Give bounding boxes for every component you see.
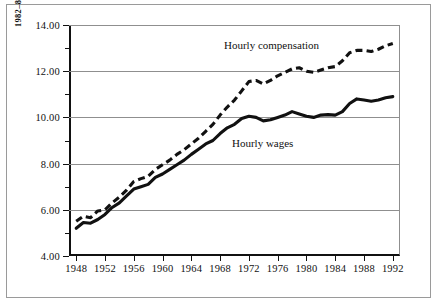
x-tick-label: 1980 [296, 263, 318, 274]
y-tick-label: 8.00 [41, 158, 60, 169]
x-tick [249, 256, 250, 261]
y-axis-title: 1982–84 DOLLARS [14, 0, 23, 27]
x-tick [191, 256, 192, 261]
x-tick-label: 1956 [123, 263, 145, 274]
x-tick-label: 1964 [180, 263, 202, 274]
x-tick [364, 256, 365, 261]
x-tick-label: 1968 [209, 263, 231, 274]
x-tick-label: 1948 [65, 263, 87, 274]
series-label-wages: Hourly wages [232, 137, 293, 149]
x-tick-label: 1972 [238, 263, 260, 274]
y-tick-label: 12.00 [35, 66, 60, 77]
x-tick-label: 1976 [267, 263, 289, 274]
x-tick-label: 1952 [94, 263, 116, 274]
y-tick-label: 14.00 [35, 20, 60, 31]
x-tick-label: 1992 [382, 263, 404, 274]
series-line-compensation [76, 43, 393, 221]
x-tick [306, 256, 307, 261]
x-tick [163, 256, 164, 261]
y-tick-label: 6.00 [41, 204, 60, 215]
series-line-wages [76, 97, 393, 229]
y-tick-major [63, 256, 69, 257]
x-tick [278, 256, 279, 261]
x-tick [76, 256, 77, 261]
x-tick-label: 1984 [324, 263, 346, 274]
x-tick [393, 256, 394, 261]
x-tick [105, 256, 106, 261]
x-tick [220, 256, 221, 261]
y-tick-label: 4.00 [41, 251, 60, 262]
x-tick [335, 256, 336, 261]
series-label-compensation: Hourly compensation [224, 39, 319, 51]
y-tick-label: 10.00 [35, 112, 60, 123]
x-tick [134, 256, 135, 261]
x-tick-label: 1988 [353, 263, 375, 274]
x-tick-label: 1960 [152, 263, 174, 274]
chart-figure: 1982–84 DOLLARS 4.006.008.0010.0012.0014… [0, 0, 439, 306]
